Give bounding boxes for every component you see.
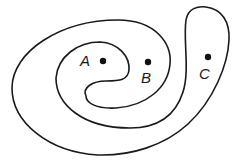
point-b-dot (145, 59, 151, 65)
point-c-dot (205, 54, 211, 60)
closed-curve (12, 7, 229, 155)
point-a-dot (100, 58, 106, 64)
point-c-label: C (199, 65, 210, 82)
closed-curve-diagram: A B C (0, 0, 244, 162)
point-b-label: B (141, 69, 151, 86)
point-a-label: A (79, 52, 90, 69)
